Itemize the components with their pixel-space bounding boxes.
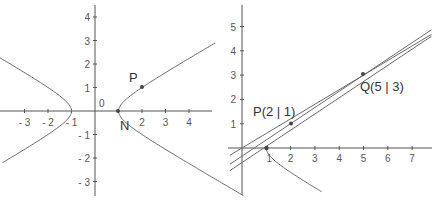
y-tick-label: 1 [230, 119, 236, 130]
hyperbola-right-branch [119, 43, 244, 196]
point-p-coord-label: P(2 | 1) [253, 104, 295, 119]
x-tick-label: 4 [186, 117, 192, 128]
x-tick-label: 3 [312, 153, 318, 164]
line-tangent-at-q [230, 34, 432, 155]
y-tick-label: - 2 [78, 153, 90, 164]
line-secant-pq [230, 30, 432, 164]
point-p-marker [140, 85, 144, 89]
y-tick-label: 5 [230, 22, 236, 33]
y-tick-label: 2 [84, 59, 90, 70]
y-tick-label: - 1 [78, 130, 90, 141]
point-q-marker [361, 72, 365, 76]
point-p-label: P [129, 70, 138, 85]
y-tick-label: 3 [84, 36, 90, 47]
point-n-marker [116, 109, 120, 113]
x-tick-label: 7 [409, 153, 415, 164]
left-x-ticks: - 3- 2- 1234 [19, 109, 193, 128]
origin-label: 0 [99, 98, 105, 109]
x-tick-label: 5 [361, 153, 367, 164]
point-q-coord-label: Q(5 | 3) [360, 79, 404, 94]
x-tick-label: 3 [163, 117, 169, 128]
right-x-ticks: 1234567 [266, 146, 415, 164]
right-plot-tangents: 1234567 54321 P(2 | 1) Q(5 | 3) [228, 5, 432, 195]
point-p-marker-right [289, 122, 293, 126]
y-tick-label: 2 [230, 94, 236, 105]
point-n-label: N [120, 118, 129, 133]
y-tick-label: 1 [84, 83, 90, 94]
y-tick-label: - 3 [78, 177, 90, 188]
left-plot-hyperbola: - 3- 2- 1234 4321- 1- 2- 3 0 N P [0, 5, 243, 196]
y-tick-label: 4 [84, 12, 90, 23]
y-tick-label: 3 [230, 70, 236, 81]
right-lines [230, 30, 432, 171]
x-tick-label: 6 [385, 153, 391, 164]
x-tick-label: - 3 [19, 117, 31, 128]
figure-canvas: - 3- 2- 1234 4321- 1- 2- 3 0 N P 1234567… [0, 0, 435, 203]
y-tick-label: 4 [230, 46, 236, 57]
x-tick-label: 2 [139, 117, 145, 128]
x-tick-label: 4 [336, 153, 342, 164]
x-tick-label: - 2 [42, 117, 54, 128]
hyperbola-left-branch [0, 12, 72, 162]
point-vertex-marker [264, 146, 268, 150]
x-tick-label: 2 [288, 153, 294, 164]
left-y-ticks: 4321- 1- 2- 3 [78, 12, 97, 188]
